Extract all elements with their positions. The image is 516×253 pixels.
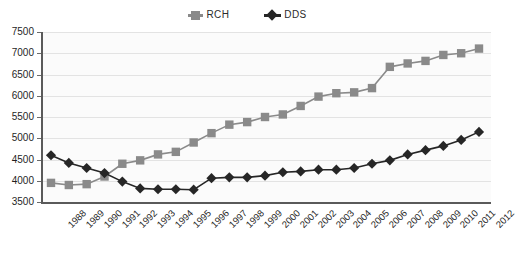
y-axis-tick-label: 5500 <box>12 112 34 122</box>
series-line-dds <box>51 132 479 190</box>
data-point-rch[interactable] <box>225 120 233 128</box>
x-axis-tick-label: 2011 <box>476 208 497 229</box>
data-point-rch[interactable] <box>118 160 126 168</box>
data-point-rch[interactable] <box>332 89 340 97</box>
x-axis-tick-label: 1988 <box>66 208 88 230</box>
y-axis-tick-label: 7000 <box>12 48 34 58</box>
data-point-rch[interactable] <box>296 102 304 110</box>
legend-square-marker-icon <box>191 11 200 20</box>
data-point-rch[interactable] <box>439 51 447 59</box>
x-axis-tick-label: 1990 <box>102 208 124 230</box>
x-axis-tick-label: 2005 <box>369 208 391 230</box>
y-axis-tick-label: 5000 <box>12 133 34 143</box>
y-axis-tick-label: 3500 <box>12 197 34 207</box>
data-point-rch[interactable] <box>457 49 465 57</box>
data-point-dds[interactable] <box>385 155 395 165</box>
x-axis-tick-label: 2006 <box>387 208 409 230</box>
data-point-dds[interactable] <box>189 185 199 195</box>
y-axis-tick-label: 6500 <box>12 70 34 80</box>
x-axis-tick-label: 2001 <box>298 208 320 230</box>
plot-area <box>41 32 491 204</box>
data-point-rch[interactable] <box>368 84 376 92</box>
data-point-rch[interactable] <box>350 88 358 96</box>
data-point-dds[interactable] <box>117 177 127 187</box>
x-axis-tick-label: 2000 <box>280 208 302 230</box>
data-point-rch[interactable] <box>82 180 90 188</box>
data-point-dds[interactable] <box>420 145 430 155</box>
data-point-rch[interactable] <box>475 44 483 52</box>
data-point-rch[interactable] <box>243 118 251 126</box>
data-point-dds[interactable] <box>349 163 359 173</box>
data-point-dds[interactable] <box>260 171 270 181</box>
data-point-dds[interactable] <box>153 184 163 194</box>
x-axis-tick-label: 2002 <box>316 208 338 230</box>
data-point-rch[interactable] <box>154 150 162 158</box>
data-point-rch[interactable] <box>136 156 144 164</box>
data-point-dds[interactable] <box>135 183 145 193</box>
x-axis-tick-label: 2008 <box>423 208 445 230</box>
data-point-dds[interactable] <box>456 135 466 145</box>
data-point-dds[interactable] <box>296 166 306 176</box>
x-axis-tick-label: 1993 <box>155 208 177 230</box>
data-point-rch[interactable] <box>421 57 429 65</box>
x-axis-tick-label: 1989 <box>84 208 106 230</box>
data-point-dds[interactable] <box>224 172 234 182</box>
data-point-dds[interactable] <box>438 141 448 151</box>
x-axis-tick-label: 1996 <box>209 208 231 230</box>
legend-label-dds: DDS <box>284 10 306 20</box>
data-point-rch[interactable] <box>261 113 269 121</box>
data-point-dds[interactable] <box>206 173 216 183</box>
legend-entry-rch[interactable]: RCH <box>191 10 229 20</box>
data-point-dds[interactable] <box>64 158 74 168</box>
y-axis-tick-labels: 750070006500600055005000450040003500 <box>0 32 38 204</box>
x-axis-tick-label: 1995 <box>191 208 213 230</box>
x-axis-tick-label: 2012 <box>494 208 516 230</box>
data-point-rch[interactable] <box>47 179 55 187</box>
data-point-rch[interactable] <box>386 63 394 71</box>
data-point-dds[interactable] <box>171 184 181 194</box>
y-axis-tick-label: 6000 <box>12 91 34 101</box>
x-axis-tick-label: 1994 <box>173 208 195 230</box>
data-point-rch[interactable] <box>314 92 322 100</box>
data-point-dds[interactable] <box>278 167 288 177</box>
data-point-dds[interactable] <box>46 150 56 160</box>
data-point-rch[interactable] <box>172 148 180 156</box>
y-axis-tick-label: 4500 <box>12 155 34 165</box>
data-point-dds[interactable] <box>313 165 323 175</box>
data-point-dds[interactable] <box>403 149 413 159</box>
legend-diamond-marker-icon <box>267 10 278 21</box>
data-point-rch[interactable] <box>65 181 73 189</box>
legend-label-rch: RCH <box>206 10 229 20</box>
legend-entry-dds[interactable]: DDS <box>267 10 306 21</box>
data-point-rch[interactable] <box>279 110 287 118</box>
data-point-rch[interactable] <box>403 59 411 67</box>
data-point-dds[interactable] <box>331 165 341 175</box>
data-point-dds[interactable] <box>242 172 252 182</box>
x-axis-tick-labels: 1988198919901991199219931994199519961997… <box>41 206 496 252</box>
chart-legend: RCH DDS <box>0 4 498 26</box>
data-series-layer <box>41 32 491 204</box>
data-point-rch[interactable] <box>189 138 197 146</box>
data-point-dds[interactable] <box>82 163 92 173</box>
y-axis-tick-label: 7500 <box>12 27 34 37</box>
x-axis-tick-label: 2007 <box>405 208 427 230</box>
y-axis-tick-label: 4000 <box>12 176 34 186</box>
x-axis-tick-label: 1999 <box>262 208 284 230</box>
data-point-dds[interactable] <box>367 159 377 169</box>
data-point-dds[interactable] <box>474 127 484 137</box>
data-point-rch[interactable] <box>207 129 215 137</box>
